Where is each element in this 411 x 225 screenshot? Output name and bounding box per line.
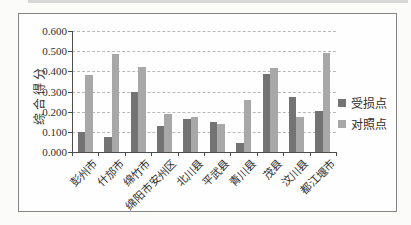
- legend-label-control: 对照点: [351, 115, 387, 133]
- bar-damaged-1: [104, 137, 112, 152]
- x-category-label-0: 彭州市: [68, 157, 100, 189]
- x-category-label-6: 青川县: [226, 157, 258, 189]
- bar-damaged-8: [289, 97, 297, 152]
- y-tick-label-0.000: 0.000: [31, 146, 67, 158]
- bar-control-6: [244, 100, 252, 152]
- x-category-label-4: 北川县: [173, 157, 205, 189]
- x-tick-mark: [310, 153, 311, 156]
- bar-control-7: [270, 68, 278, 152]
- x-tick-mark: [98, 153, 99, 156]
- bar-control-8: [296, 117, 304, 152]
- x-category-label-1: 什邡市: [94, 157, 126, 189]
- y-tick-label-0.500: 0.500: [31, 45, 67, 57]
- x-tick-mark: [230, 153, 231, 156]
- bar-control-5: [217, 124, 225, 152]
- legend-swatch-damaged-icon: [338, 99, 346, 107]
- bar-control-2: [138, 67, 146, 152]
- plot-area: 0.6000.5000.4000.3000.2000.1000.000彭州市什邡…: [0, 0, 411, 225]
- x-tick-mark: [204, 153, 205, 156]
- bar-damaged-7: [263, 74, 271, 152]
- gridline-0.600: [72, 31, 336, 32]
- legend-item-damaged-points: 受损点: [338, 94, 387, 112]
- legend-swatch-control-icon: [338, 120, 346, 128]
- bar-damaged-5: [210, 122, 218, 152]
- y-axis-line: [72, 31, 73, 152]
- x-tick-mark: [336, 153, 337, 156]
- x-tick-mark: [178, 153, 179, 156]
- y-tick-label-0.400: 0.400: [31, 65, 67, 77]
- bar-damaged-2: [131, 92, 139, 153]
- x-tick-mark: [151, 153, 152, 156]
- bar-damaged-0: [78, 132, 86, 152]
- x-tick-mark: [257, 153, 258, 156]
- gridline-0.500: [72, 51, 336, 52]
- bar-control-4: [191, 117, 199, 152]
- y-tick-label-0.600: 0.600: [31, 25, 67, 37]
- bar-damaged-9: [315, 111, 323, 152]
- bar-control-1: [112, 54, 120, 152]
- scanned-chart-page: 综合得分 0.6000.5000.4000.3000.2000.1000.000…: [0, 0, 411, 225]
- x-tick-mark: [283, 153, 284, 156]
- bar-control-3: [164, 114, 172, 152]
- bar-control-0: [85, 75, 93, 152]
- y-tick-label-0.100: 0.100: [31, 126, 67, 138]
- bar-damaged-6: [236, 143, 244, 152]
- y-tick-label-0.300: 0.300: [31, 86, 67, 98]
- legend-label-damaged: 受损点: [351, 94, 387, 112]
- x-tick-mark: [72, 153, 73, 156]
- bar-control-9: [323, 53, 331, 152]
- legend-item-control-points: 对照点: [338, 115, 387, 133]
- bar-damaged-3: [157, 126, 165, 152]
- x-tick-mark: [125, 153, 126, 156]
- bar-damaged-4: [183, 119, 191, 152]
- y-tick-label-0.200: 0.200: [31, 106, 67, 118]
- x-category-label-5: 平武县: [200, 157, 232, 189]
